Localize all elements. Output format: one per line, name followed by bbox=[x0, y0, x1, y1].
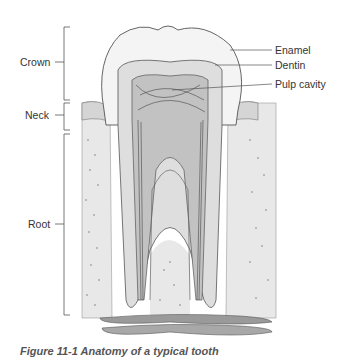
blood-vessels bbox=[100, 314, 272, 335]
label-root: Root bbox=[28, 219, 50, 230]
label-crown: Crown bbox=[20, 57, 50, 68]
label-dentin: Dentin bbox=[275, 60, 305, 71]
label-pulp-cavity: Pulp cavity bbox=[275, 79, 326, 90]
label-neck: Neck bbox=[25, 110, 49, 121]
region-brackets bbox=[55, 27, 70, 315]
figure-caption: Figure 11-1 Anatomy of a typical tooth bbox=[20, 345, 219, 357]
label-enamel: Enamel bbox=[275, 45, 311, 56]
